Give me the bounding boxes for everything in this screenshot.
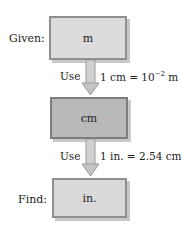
find-unit-box: in.	[52, 178, 127, 218]
step2-conversion-rule: 1 in. = 2.54 cm	[100, 150, 182, 162]
down-arrow-icon	[82, 139, 100, 177]
intermediate-unit-box: cm	[50, 97, 128, 139]
rule-exponent: −2	[155, 70, 165, 78]
step1-use-label: Use	[60, 70, 80, 82]
find-label: Find:	[18, 193, 47, 206]
given-unit-box: m	[49, 16, 127, 60]
rule-base: 1 cm = 10	[100, 71, 155, 83]
given-label: Given:	[9, 32, 45, 45]
given-unit-label: m	[83, 32, 93, 45]
find-unit-label: in.	[82, 192, 96, 205]
intermediate-unit-label: cm	[81, 112, 98, 125]
down-arrow-icon	[82, 60, 100, 96]
rule-unit: m	[165, 71, 178, 83]
step1-conversion-rule: 1 cm = 10−2 m	[100, 70, 178, 83]
step2-use-label: Use	[60, 150, 80, 162]
